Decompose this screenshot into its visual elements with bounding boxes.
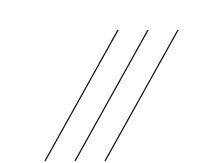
pascal-triangle-diagram (0, 0, 199, 163)
diagonal-lines (0, 0, 199, 163)
diagonal-t (105, 30, 178, 161)
diagonal-d (75, 30, 148, 161)
diagonal-n (45, 30, 118, 161)
